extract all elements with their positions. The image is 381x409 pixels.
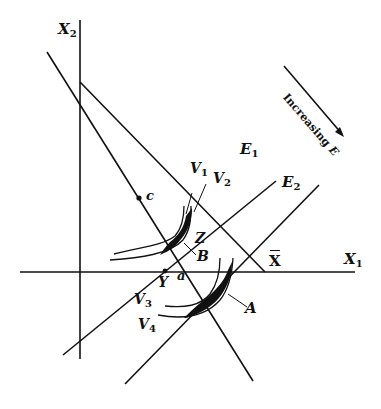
line-e1: [63, 181, 276, 355]
point-c-label: c: [146, 188, 154, 203]
x2-axis-label: X2: [58, 20, 77, 39]
point-y: [163, 269, 168, 274]
point-z-label: Z: [195, 230, 205, 246]
point-y-label: Y: [158, 274, 168, 290]
point-b-label: B: [197, 248, 209, 264]
point-a-label: A: [245, 299, 257, 317]
diagram-canvas: X2 X1 X E1 E2 V1 V2 V3 V4 c Z B Y a A In…: [0, 0, 381, 409]
point-c: [136, 195, 141, 200]
v1-label: V1: [190, 160, 208, 178]
v2-pointer: [194, 184, 206, 212]
v2-label: V2: [213, 170, 231, 188]
v3-label: V3: [134, 291, 152, 309]
e1-label: E1: [240, 140, 258, 159]
diagram-svg: [0, 0, 381, 409]
x1-axis-label: X1: [344, 250, 363, 269]
xbar-label: X: [269, 252, 281, 270]
v4-label: V4: [138, 316, 156, 334]
e2-label: E2: [282, 173, 300, 192]
point-a-small-label: a: [177, 268, 185, 283]
